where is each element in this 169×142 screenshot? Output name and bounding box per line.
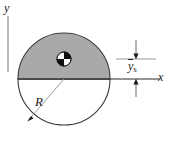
y-axis-label: y <box>4 2 9 14</box>
centroid-marker-icon <box>57 52 71 66</box>
centroid-distance-symbol: y <box>128 60 133 72</box>
figure-drawing-canvas <box>0 0 169 142</box>
radius-label: R <box>35 95 43 108</box>
centroid-distance-subscript: s <box>133 64 137 74</box>
radius-arrowhead <box>27 116 33 122</box>
dimension-arrow-lower <box>133 79 138 85</box>
centroid-distance-label: ys <box>128 60 137 74</box>
centroid-semicircle-figure: y x R ys <box>0 0 169 142</box>
dimension-arrow-upper <box>133 53 138 59</box>
x-axis-label: x <box>158 71 163 83</box>
